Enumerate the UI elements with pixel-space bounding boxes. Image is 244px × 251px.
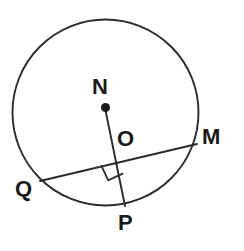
point-label-q: Q [15, 178, 32, 200]
point-label-n: N [92, 76, 108, 98]
point-label-o: O [117, 128, 134, 150]
point-label-p: P [118, 212, 133, 234]
point-label-m: M [202, 126, 220, 148]
radius-segment-np [105, 108, 125, 206]
circle-geometry-diagram: N O M Q P [0, 0, 244, 251]
center-point-dot [101, 103, 110, 112]
